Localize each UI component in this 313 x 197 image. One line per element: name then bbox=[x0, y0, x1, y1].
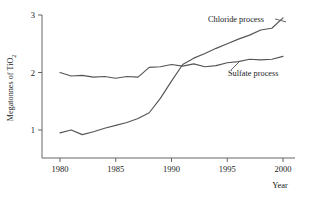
y-axis-title: Megatonnes of TiO2 bbox=[6, 55, 17, 122]
chart-axes: 123 19801985199019952000 bbox=[31, 10, 295, 174]
chart-container: 123 19801985199019952000 Chloride proces… bbox=[0, 0, 313, 197]
line-chart: 123 19801985199019952000 Chloride proces… bbox=[0, 0, 313, 197]
x-tick-label: 1980 bbox=[52, 164, 69, 174]
y-axis-title-main: Megatonnes of TiO bbox=[6, 58, 15, 122]
x-tick-label: 1990 bbox=[163, 164, 180, 174]
x-axis-ticks: 19801985199019952000 bbox=[52, 158, 292, 174]
x-tick-label: 1985 bbox=[107, 164, 124, 174]
series-label-sulfate-process: Sulfate process bbox=[228, 69, 278, 78]
y-tick-label: 3 bbox=[31, 10, 35, 20]
y-tick-label: 2 bbox=[31, 68, 35, 78]
x-tick-label: 2000 bbox=[275, 164, 292, 174]
x-tick-label: 1995 bbox=[219, 164, 236, 174]
y-axis-title-subscript: 2 bbox=[11, 55, 17, 58]
series-label-chloride-process: Chloride process bbox=[208, 15, 264, 24]
y-axis-ticks: 123 bbox=[31, 10, 42, 135]
x-axis-title: Year bbox=[272, 180, 288, 190]
y-tick-label: 1 bbox=[31, 125, 35, 135]
